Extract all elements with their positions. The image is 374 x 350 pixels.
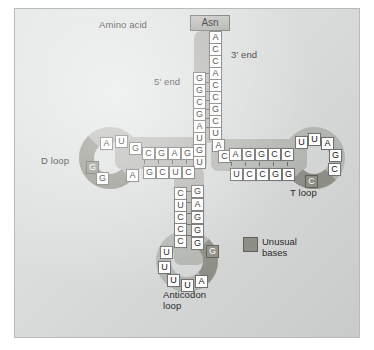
base-ac-loop-3: U <box>181 279 194 292</box>
hbonds-t-arm <box>228 162 298 166</box>
base-d-top-2: A <box>168 147 181 160</box>
base-t-loop-0: U <box>295 136 308 149</box>
base-d-loop-0: A <box>100 137 113 150</box>
base-t-bot-1: C <box>243 168 256 181</box>
legend-label-line1: Unusual <box>262 236 297 248</box>
amino-acid-tag: Asn <box>190 15 230 31</box>
base-ac-loop-4: A <box>195 275 208 288</box>
trna-diagram: Amino acid 3' end 5' end D loop T loop A… <box>0 0 374 350</box>
base-d-bot-0: G <box>143 166 156 179</box>
base-t-loop-5: C <box>305 175 318 188</box>
base-d-top-1: G <box>155 147 168 160</box>
label-5-prime-end: 5' end <box>154 76 180 88</box>
base-ac-right-0: G <box>191 185 204 198</box>
base-d-bot-3: C <box>182 166 195 179</box>
base-t-top-0: A <box>229 148 242 161</box>
base-t-bot-4: G <box>282 168 295 181</box>
base-ac-right-3: G <box>191 224 204 237</box>
base-t-bot-3: G <box>269 168 282 181</box>
base-t-bot-0: U <box>230 168 243 181</box>
base-d-loop-5: A <box>126 169 139 182</box>
base-ac-loop-2: U <box>167 274 180 287</box>
base-ac-loop-0: U <box>160 246 173 259</box>
hbonds-d-arm <box>141 160 199 164</box>
base-t-loop-3: G <box>329 149 342 162</box>
base-d-loop-1: U <box>115 135 128 148</box>
legend-label-line2: bases <box>262 247 287 259</box>
label-anticodon-loop-line2: loop <box>163 300 181 312</box>
base-d-loop-4: G <box>96 172 109 185</box>
base-ac-loop-1: U <box>158 261 171 274</box>
label-3-prime-end: 3' end <box>231 49 257 61</box>
base-ac-loop-5: G <box>206 245 219 258</box>
base-d-bot-2: U <box>169 166 182 179</box>
diagram-panel: Amino acid 3' end 5' end D loop T loop A… <box>14 8 360 338</box>
base-d-bot-1: C <box>156 166 169 179</box>
base-d-top-3: G <box>181 147 194 160</box>
legend-swatch-unusual-bases <box>243 237 258 252</box>
base-t-loop-4: C <box>328 163 341 176</box>
base-ac-right-1: A <box>191 198 204 211</box>
base-t-top-3: C <box>268 148 281 161</box>
base-d-loop-2: G <box>129 142 142 155</box>
base-t-top-4: C <box>281 148 294 161</box>
base-ac-right-4: G <box>191 237 204 250</box>
base-t-top-1: G <box>242 148 255 161</box>
base-ac-right-2: G <box>191 211 204 224</box>
base-t-bot-2: C <box>256 168 269 181</box>
base-ac-left-4: C <box>174 235 187 248</box>
label-amino-acid: Amino acid <box>99 19 147 31</box>
base-t-top-2: G <box>255 148 268 161</box>
base-d-top-0: C <box>142 147 155 160</box>
label-d-loop: D loop <box>41 155 69 167</box>
base-t-loop-1: U <box>308 133 321 146</box>
